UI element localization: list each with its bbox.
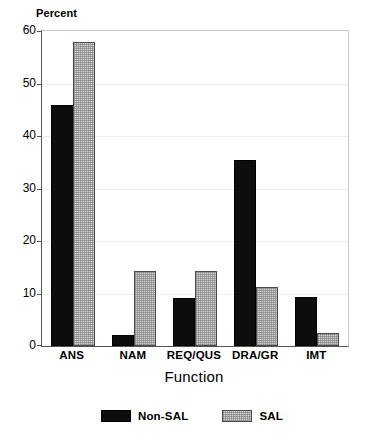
x-axis-title: Function — [41, 368, 347, 385]
bar-nam-sal — [134, 271, 156, 346]
legend-label: SAL — [259, 410, 283, 422]
bar-imt-sal — [317, 333, 339, 346]
legend-label: Non-SAL — [138, 410, 189, 422]
bar-nam-non-sal — [112, 335, 134, 346]
bar-imt-non-sal — [295, 297, 317, 346]
legend-swatch-icon — [222, 410, 252, 422]
bar-req-qus-non-sal — [173, 298, 195, 346]
bar-chart: Percent 60 50 40 30 20 10 0 ANSNAMREQ/QU… — [0, 0, 384, 441]
bar-dra-gr-sal — [256, 287, 278, 346]
y-tick-label: 50 — [2, 77, 36, 89]
y-tick-label: 0 — [2, 339, 36, 351]
y-tick-label: 20 — [2, 234, 36, 246]
y-tick-label: 30 — [2, 182, 36, 194]
bar-ans-non-sal — [51, 105, 73, 347]
x-tick-label: DRA/GR — [232, 349, 279, 361]
bar-req-qus-sal — [195, 271, 217, 346]
bar-ans-sal — [73, 42, 95, 347]
legend-entry-non-sal: Non-SAL — [101, 410, 189, 422]
legend-entry-sal: SAL — [222, 410, 283, 422]
y-tick-label: 40 — [2, 129, 36, 141]
y-tick-label: 60 — [2, 24, 36, 36]
x-tick-label: REQ/QUS — [167, 349, 221, 361]
y-tick-label: 10 — [2, 287, 36, 299]
x-axis-tick-labels: ANSNAMREQ/QUSDRA/GRIMT — [41, 349, 347, 369]
x-tick-label: NAM — [119, 349, 146, 361]
bar-dra-gr-non-sal — [234, 160, 256, 346]
y-axis-tick-labels: 60 50 40 30 20 10 0 — [0, 30, 36, 345]
x-tick-label: IMT — [306, 349, 326, 361]
y-axis-title: Percent — [36, 7, 77, 19]
bars-layer — [42, 31, 348, 346]
legend-swatch-icon — [101, 410, 131, 422]
chart-legend: Non-SAL SAL — [0, 410, 384, 422]
plot-area — [41, 30, 349, 347]
x-tick-label: ANS — [59, 349, 84, 361]
